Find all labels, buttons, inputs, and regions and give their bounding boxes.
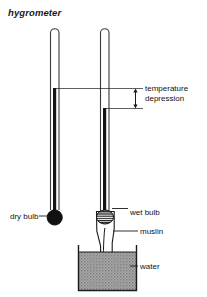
label-temperature-depression-line2: depression (145, 94, 188, 104)
diagram-canvas (0, 0, 207, 297)
wet-bulb-mercury-column (103, 108, 106, 212)
label-dry-bulb: dry bulb (10, 212, 38, 222)
water-beaker (79, 245, 139, 291)
dry-bulb-mercury-column (53, 88, 56, 212)
water-fill (79, 252, 136, 290)
wet-bulb-thermometer (101, 29, 110, 212)
label-temperature-depression-line1: temperature (145, 84, 188, 94)
dry-bulb-thermometer (39, 29, 62, 225)
label-water: water (140, 262, 160, 272)
hygrometer-diagram: hygrometer (0, 0, 207, 297)
label-temperature-depression: temperature depression (145, 84, 188, 103)
temperature-depression-measure (56, 89, 143, 109)
label-muslin: muslin (140, 227, 163, 237)
label-wet-bulb: wet bulb (130, 208, 160, 218)
dry-bulb-reservoir (47, 210, 62, 225)
depression-arrow-down (133, 104, 137, 108)
depression-arrow-up (133, 89, 137, 93)
